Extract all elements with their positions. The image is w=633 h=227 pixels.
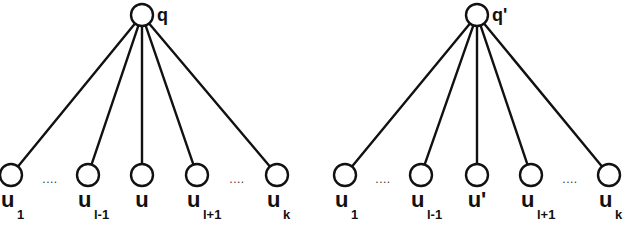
edges (18, 23, 602, 166)
ellipsis-left-1: .... (229, 172, 244, 186)
leaf-node-left-4 (266, 164, 288, 186)
leaf-subscript-left-3: l+1 (203, 207, 221, 222)
leaf-node-right-2 (466, 164, 488, 186)
root-node-left (131, 4, 153, 26)
leaf-subscript-right-3: l+1 (537, 207, 555, 222)
leaf-node-left-3 (186, 164, 208, 186)
leaf-node-right-3 (520, 164, 542, 186)
root-label-left: q (157, 5, 168, 25)
leaf-label-left-0: u (1, 187, 14, 212)
leaf-node-left-1 (77, 164, 99, 186)
leaf-label-left-1: u (78, 187, 91, 212)
leaf-subscript-right-4: k (615, 207, 623, 222)
leaf-node-right-4 (598, 164, 620, 186)
leaf-label-left-4: u (267, 187, 280, 212)
root-node-right (466, 4, 488, 26)
edge-left-0 (18, 24, 135, 167)
leaf-subscript-right-0: 1 (351, 207, 358, 222)
labels: qu1ul-1uul+1uk........q'u1ul-1u'ul+1uk..… (1, 5, 623, 222)
leaf-label-right-0: u (335, 187, 348, 212)
leaf-node-left-0 (0, 164, 22, 186)
leaf-label-right-1: u (411, 187, 424, 212)
edge-right-0 (352, 23, 470, 166)
leaf-subscript-right-1: l-1 (427, 207, 442, 222)
leaf-label-right-2: u' (468, 187, 487, 212)
leaf-subscript-left-0: 1 (17, 207, 24, 222)
leaf-subscript-left-1: l-1 (94, 207, 109, 222)
tree-diagram-canvas: qu1ul-1uul+1uk........q'u1ul-1u'ul+1uk..… (0, 0, 633, 227)
leaf-label-right-4: u (599, 187, 612, 212)
ellipsis-left-0: .... (42, 172, 57, 186)
edge-right-4 (484, 23, 602, 166)
leaf-node-right-0 (334, 164, 356, 186)
root-label-right: q' (492, 5, 507, 25)
ellipsis-right-1: .... (562, 172, 577, 186)
leaf-node-right-1 (410, 164, 432, 186)
leaf-label-left-3: u (187, 187, 200, 212)
leaf-label-left-2: u (135, 187, 148, 212)
ellipsis-right-0: .... (375, 172, 390, 186)
leaf-label-right-3: u (521, 187, 534, 212)
leaf-subscript-left-4: k (283, 207, 291, 222)
leaf-node-left-2 (131, 164, 153, 186)
left-tree (0, 4, 288, 186)
edge-right-1 (425, 25, 474, 164)
edge-left-4 (149, 23, 270, 166)
